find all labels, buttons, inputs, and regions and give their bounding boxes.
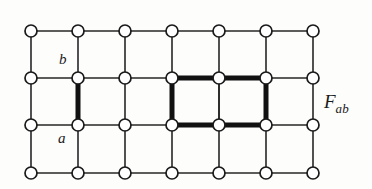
vertex-node (166, 72, 178, 84)
vertex-node (119, 119, 131, 131)
face-label-fab: Fab (324, 92, 349, 115)
vertex-node (25, 119, 37, 131)
vertex-label-b: b (59, 52, 67, 67)
vertex-node (119, 167, 131, 179)
vertex-node (25, 25, 37, 37)
vertex-node (119, 25, 131, 37)
vertex-node (307, 25, 319, 37)
vertex-node (260, 72, 272, 84)
face-label-base: F (324, 91, 336, 112)
vertex-node (213, 167, 225, 179)
vertex-node (25, 167, 37, 179)
lattice-graph-svg (0, 0, 372, 189)
vertex-label-a: a (58, 131, 66, 146)
vertex-node (166, 167, 178, 179)
vertex-node (72, 25, 84, 37)
vertex-node (166, 119, 178, 131)
vertex-node (307, 167, 319, 179)
vertex-node (72, 167, 84, 179)
vertex-node-b (72, 72, 84, 84)
vertex-node (260, 25, 272, 37)
vertex-node-a (72, 119, 84, 131)
vertex-node (213, 25, 225, 37)
vertex-node (213, 72, 225, 84)
vertex-node (119, 72, 131, 84)
face-label-subscript: ab (336, 101, 349, 116)
vertex-node (307, 72, 319, 84)
vertex-node (260, 119, 272, 131)
vertex-node (25, 72, 37, 84)
vertex-node (307, 119, 319, 131)
vertex-node (260, 167, 272, 179)
vertex-node (166, 25, 178, 37)
figure-canvas: b a Fab (0, 0, 372, 189)
vertex-node (213, 119, 225, 131)
